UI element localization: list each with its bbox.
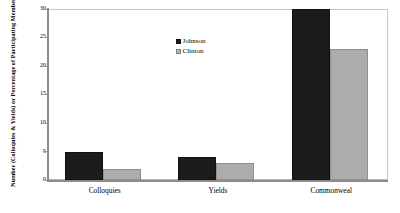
x-axis-line — [47, 180, 388, 182]
bar-group-yields — [161, 9, 274, 180]
y-tick-label: 25 — [32, 33, 46, 39]
y-tick-label: 10 — [32, 119, 46, 125]
legend-entry-johnson: Johnson — [176, 37, 205, 47]
bar-group-colloquies — [48, 9, 161, 180]
chart-legend: Johnson Clinton — [176, 37, 205, 56]
y-tick-label: 15 — [32, 90, 46, 96]
y-axis-title: Number (Colloquies & Yields) or Percenta… — [10, 1, 18, 187]
bar-clinton-commonweal — [330, 49, 368, 180]
x-tick-label-colloquies: Colloquies — [48, 186, 161, 195]
legend-swatch-icon — [176, 49, 181, 54]
legend-label-clinton: Clinton — [183, 47, 204, 57]
bar-clinton-colloquies — [103, 169, 141, 180]
legend-entry-clinton: Clinton — [176, 47, 205, 57]
y-axis-title-container: Number (Colloquies & Yields) or Percenta… — [0, 0, 28, 188]
bar-johnson-colloquies — [65, 152, 103, 181]
bar-clinton-yields — [216, 163, 254, 180]
legend-swatch-icon — [176, 39, 181, 44]
bar-johnson-commonweal — [292, 9, 330, 180]
y-tick-label: 20 — [32, 62, 46, 68]
bar-johnson-yields — [178, 157, 216, 180]
bar-chart-figure: Number (Colloquies & Yields) or Percenta… — [0, 0, 400, 213]
y-tick-label: 30 — [32, 5, 46, 11]
x-tick-label-yields: Yields — [161, 186, 274, 195]
x-tick-label-commonweal: Commonweal — [275, 186, 388, 195]
y-tick-label: 0 — [32, 176, 46, 182]
bars-layer — [48, 9, 388, 180]
legend-label-johnson: Johnson — [183, 37, 206, 47]
bar-group-commonweal — [275, 9, 388, 180]
